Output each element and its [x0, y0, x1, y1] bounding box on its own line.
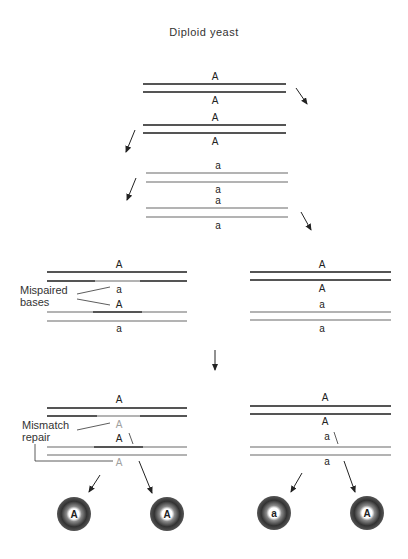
spore-label: A [363, 508, 370, 519]
replicated-a-duplex-1: a a [146, 160, 288, 195]
replicated-A-duplex: A A [143, 112, 286, 147]
strand-label-repaired: A [116, 419, 123, 430]
arrow-icon [296, 88, 307, 104]
strand-label: a [319, 323, 325, 334]
leader-line [334, 432, 338, 444]
diagram-title: Diploid yeast [169, 26, 238, 38]
annotation-text: Mismatch [22, 419, 69, 431]
strand-label: a [324, 431, 330, 442]
diploid-yeast-diagram: Diploid yeast A A A A a a a a A a A [0, 0, 408, 559]
strand-label: a [116, 284, 122, 295]
strand-label: A [319, 283, 326, 294]
leader-line [77, 287, 110, 294]
strand-label: a [215, 220, 221, 231]
repair-left: A A A A [47, 394, 187, 468]
arrow-icon [89, 475, 100, 492]
annotation-text: bases [20, 296, 50, 308]
annotation-text: repair [22, 431, 50, 443]
annotation-text: Mispaired [20, 284, 68, 296]
strand-label: a [319, 299, 325, 310]
arrow-icon [344, 461, 355, 492]
strand-label: a [215, 195, 221, 206]
mispaired-bases-annotation: Mispaired bases [20, 284, 110, 308]
strand-label: A [322, 392, 329, 403]
replicated-a-duplex-2: a a [146, 195, 288, 231]
strand-label: A [212, 95, 219, 106]
arrow-icon [126, 130, 135, 152]
strand-label: A [116, 259, 123, 270]
leader-line [77, 423, 110, 430]
spore-3: a [257, 496, 291, 530]
strand-label-repaired: A [116, 457, 123, 468]
strand-label: a [215, 160, 221, 171]
strand-label: a [116, 323, 122, 334]
strand-label: A [116, 299, 123, 310]
arrow-icon [127, 178, 136, 200]
strand-label: A [212, 136, 219, 147]
arrow-icon [301, 212, 311, 230]
homoduplex-right: A A a a [250, 259, 391, 334]
spore-2: A [150, 497, 184, 531]
strand-label: a [215, 184, 221, 195]
spore-label: A [70, 509, 77, 520]
heteroduplex-left: A a A a [47, 259, 187, 334]
initial-duplex: A A [143, 71, 286, 106]
strand-label: A [116, 394, 123, 405]
spore-label: a [271, 508, 277, 519]
spore-1: A [57, 497, 91, 531]
spore-label: A [163, 509, 170, 520]
strand-label: A [212, 71, 219, 82]
arrow-icon [139, 461, 152, 493]
leader-line [129, 433, 133, 444]
strand-label: a [324, 456, 330, 467]
strand-label: A [319, 259, 326, 270]
repair-right: A A a a [250, 392, 391, 467]
arrow-icon [291, 473, 302, 492]
strand-label: A [212, 112, 219, 123]
strand-label: A [322, 416, 329, 427]
spore-4: A [350, 496, 384, 530]
leader-line [77, 299, 110, 305]
strand-label: A [116, 433, 123, 444]
